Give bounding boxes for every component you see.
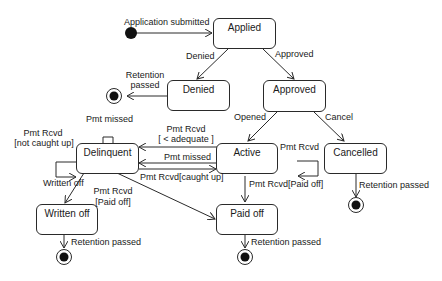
state-label: Written off [44, 208, 89, 219]
state-delinquent: Delinquent [76, 143, 139, 174]
state-approved: Approved [263, 80, 326, 112]
state-label: Active [233, 147, 260, 158]
transition-label: Pmt Rcvd [12, 128, 74, 138]
transition-label: Pmt Rcvd[Paid off] [249, 179, 323, 189]
transition-label: Retention passed [359, 180, 429, 190]
final-state-icon [349, 198, 364, 213]
transition-label: Retention passed [251, 237, 321, 247]
state-label: Delinquent [84, 147, 132, 158]
transition-label: [Paid off] [93, 197, 133, 207]
transition-label: [not caught up] [12, 138, 76, 148]
transition-label: Denied [186, 51, 215, 61]
state-label: Cancelled [333, 147, 377, 158]
state-denied: Denied [167, 80, 230, 111]
state-label: Applied [228, 22, 261, 33]
transition-label: Pmt missed [164, 152, 211, 162]
transition-label: Written off [43, 178, 84, 188]
state-active: Active [216, 143, 278, 174]
state-diagram: Applied Denied Approved Delinquent Activ… [0, 0, 442, 281]
transition-label: Application submitted [124, 17, 210, 27]
state-label: Approved [273, 84, 316, 95]
transition-label: [ < adequate ] [156, 134, 216, 144]
transition-label: Cancel [325, 112, 353, 122]
transition-label: Pmt Rcvd [156, 124, 216, 134]
transition-label: Pmt Rcvd[caught up] [140, 172, 224, 182]
transition-label: Pmt Rcvd [93, 186, 133, 196]
initial-state-icon [125, 27, 137, 39]
final-state-icon [107, 89, 122, 104]
transition-label: Opened [234, 112, 266, 122]
final-state-icon [57, 250, 72, 265]
state-written-off: Written off [36, 204, 98, 235]
transition-label: Pmt Rcvd [280, 142, 319, 152]
state-cancelled: Cancelled [324, 143, 387, 174]
state-label: Denied [183, 84, 215, 95]
transition-label: Retention [124, 70, 166, 80]
transition-label: Retention passed [71, 237, 141, 247]
state-applied: Applied [213, 18, 276, 49]
state-paid-off: Paid off [216, 204, 278, 235]
transition-label: Pmt missed [86, 114, 133, 124]
state-label: Paid off [230, 208, 264, 219]
transition-label: passed [124, 80, 166, 90]
final-state-icon [238, 250, 253, 265]
transition-label: Approved [275, 49, 314, 59]
